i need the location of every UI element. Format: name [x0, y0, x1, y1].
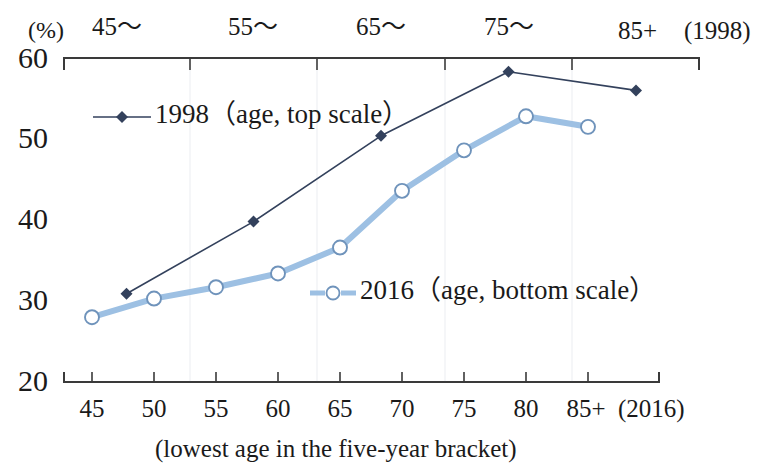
- y-tick-60: 60: [2, 43, 48, 73]
- top-tick-45: 45〜: [92, 14, 142, 39]
- y-tick-50: 50: [2, 123, 48, 153]
- top-tick-85plus: 85+: [618, 18, 657, 43]
- bottom-tick-50: 50: [137, 396, 171, 421]
- bottom-tick-85plus: 85+: [558, 396, 614, 421]
- x-axis-title: (lowest age in the five-year bracket): [155, 436, 517, 461]
- bottom-tick-75: 75: [447, 396, 481, 421]
- top-tick-55: 55〜: [228, 14, 278, 39]
- bottom-tick-65: 65: [323, 396, 357, 421]
- y-tick-30: 30: [2, 285, 48, 315]
- chart-figure: (%) 60 50 40 30 20 45〜 55〜 65〜 75〜 85+ (…: [0, 0, 781, 475]
- bottom-tick-60: 60: [261, 396, 295, 421]
- bottom-axis-ticks: [92, 372, 588, 382]
- legend-label-1998: 1998（age, top scale）: [155, 101, 409, 128]
- top-axis-year-label: (1998): [684, 18, 751, 43]
- bottom-axis-year-label: (2016): [618, 396, 685, 421]
- bottom-tick-45: 45: [75, 396, 109, 421]
- bottom-tick-55: 55: [199, 396, 233, 421]
- y-tick-40: 40: [2, 204, 48, 234]
- legend-1998-marker: [93, 111, 151, 123]
- bottom-tick-70: 70: [385, 396, 419, 421]
- y-axis-unit-label: (%): [28, 18, 64, 42]
- bottom-tick-80: 80: [509, 396, 543, 421]
- y-tick-20: 20: [2, 366, 48, 396]
- legend-label-2016: 2016（age, bottom scale）: [360, 277, 656, 304]
- top-axis-ticks: [190, 58, 572, 70]
- top-tick-65: 65〜: [356, 14, 406, 39]
- top-tick-75: 75〜: [484, 14, 534, 39]
